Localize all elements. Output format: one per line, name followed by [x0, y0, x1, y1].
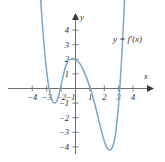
y-tick-label: −3	[59, 127, 69, 137]
x-tick-label: −4	[27, 92, 38, 102]
y-axis-label: y	[79, 12, 84, 22]
function-curve	[39, 0, 126, 150]
y-tick-label: 1	[65, 69, 69, 79]
y-tick-label: −1	[59, 98, 69, 108]
y-tick-label: −2	[59, 113, 70, 123]
graph-figure: x y −4 −3 −2 −1 1 2 3 4	[0, 0, 165, 162]
curve-equation-label: y = f′(x)	[112, 34, 142, 44]
x-tick-label: 4	[131, 92, 136, 102]
y-tick-label: 4	[65, 25, 70, 35]
y-axis-arrowhead	[72, 13, 79, 20]
x-axis-label: x	[143, 71, 148, 81]
y-tick-label: −4	[59, 142, 70, 152]
x-axis: x	[8, 71, 154, 92]
y-tick-label: 3	[64, 40, 69, 50]
plot-canvas: x y −4 −3 −2 −1 1 2 3 4	[0, 0, 165, 162]
x-tick-label: 2	[102, 92, 107, 102]
x-axis-arrowhead	[147, 85, 154, 92]
